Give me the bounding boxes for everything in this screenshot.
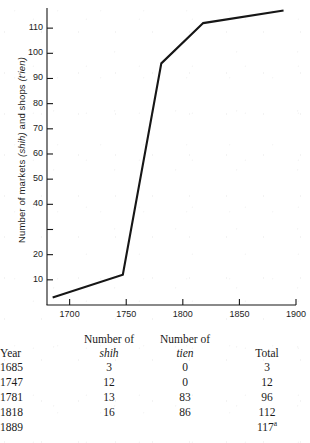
table-body: 1685303174712012178113839618181686112188… bbox=[0, 360, 310, 435]
y-tick-label: 20 bbox=[21, 249, 43, 259]
header-cell-year: Year bbox=[0, 332, 72, 360]
header-cell-total: Total bbox=[224, 332, 310, 360]
header-tien-line2: tien bbox=[146, 346, 224, 360]
header-cell-tien: Number of tien bbox=[146, 332, 224, 360]
x-tick-label: 1700 bbox=[53, 309, 87, 319]
x-axis-ticks bbox=[70, 299, 296, 305]
cell-tien: 0 bbox=[146, 375, 224, 390]
y-axis-ticks bbox=[47, 28, 53, 280]
x-tick-label: 1750 bbox=[109, 309, 143, 319]
cell-tien bbox=[146, 420, 224, 435]
y-tick-label: 90 bbox=[21, 72, 43, 82]
cell-year: 1685 bbox=[0, 360, 72, 375]
table-header-row: Year Number of shih Number of tien Total bbox=[0, 332, 310, 360]
cell-total: 117a bbox=[224, 420, 310, 435]
y-tick-label: 100 bbox=[21, 47, 43, 57]
cell-year: 1781 bbox=[0, 390, 72, 405]
total-footnote-marker: a bbox=[274, 419, 277, 428]
cell-tien: 83 bbox=[146, 390, 224, 405]
cell-year: 1889 bbox=[0, 420, 72, 435]
table-row: 1781138396 bbox=[0, 390, 310, 405]
cell-tien: 86 bbox=[146, 405, 224, 420]
y-tick-label: 70 bbox=[21, 123, 43, 133]
cell-shih bbox=[72, 420, 146, 435]
y-tick-label: 60 bbox=[21, 148, 43, 158]
y-tick-label: 10 bbox=[21, 274, 43, 284]
data-series-line bbox=[53, 11, 284, 298]
table-row: 1685303 bbox=[0, 360, 310, 375]
cell-shih: 16 bbox=[72, 405, 146, 420]
x-tick-label: 1800 bbox=[166, 309, 200, 319]
x-tick-label: 1850 bbox=[222, 309, 256, 319]
y-tick-label: 40 bbox=[21, 198, 43, 208]
x-tick-label: 1900 bbox=[279, 309, 310, 319]
table-header: Year Number of shih Number of tien Total bbox=[0, 332, 310, 360]
table-row: 174712012 bbox=[0, 375, 310, 390]
cell-tien: 0 bbox=[146, 360, 224, 375]
header-shih-line1: Number of bbox=[72, 332, 146, 346]
cell-shih: 3 bbox=[72, 360, 146, 375]
line-chart-canvas bbox=[0, 0, 310, 330]
table-row: 1889117a bbox=[0, 420, 310, 435]
cell-total: 12 bbox=[224, 375, 310, 390]
cell-shih: 12 bbox=[72, 375, 146, 390]
data-table: Year Number of shih Number of tien Total… bbox=[0, 332, 310, 435]
header-year-label: Year bbox=[0, 346, 72, 360]
y-tick-label: 50 bbox=[21, 173, 43, 183]
cell-year: 1747 bbox=[0, 375, 72, 390]
table-row: 18181686112 bbox=[0, 405, 310, 420]
header-cell-shih: Number of shih bbox=[72, 332, 146, 360]
cell-year: 1818 bbox=[0, 405, 72, 420]
cell-total: 96 bbox=[224, 390, 310, 405]
cell-total: 112 bbox=[224, 405, 310, 420]
cell-total: 3 bbox=[224, 360, 310, 375]
figure-chart: Number of markets (shih) and shops (t'ie… bbox=[0, 0, 310, 330]
cell-shih: 13 bbox=[72, 390, 146, 405]
y-tick-label: 110 bbox=[21, 22, 43, 32]
header-tien-line1: Number of bbox=[146, 332, 224, 346]
header-shih-line2: shih bbox=[72, 346, 146, 360]
y-tick-label: 80 bbox=[21, 98, 43, 108]
header-total-label: Total bbox=[224, 346, 310, 360]
